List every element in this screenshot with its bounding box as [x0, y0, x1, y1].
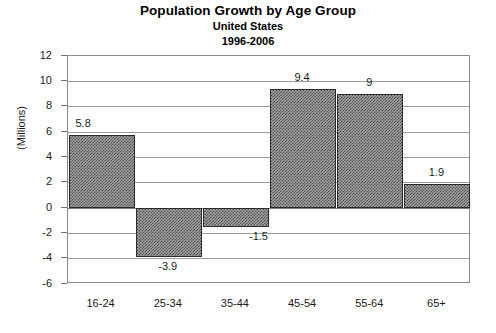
- x-tick-label: 16-24: [67, 298, 134, 309]
- x-tick-label: 25-34: [134, 298, 201, 309]
- bar[interactable]: [404, 184, 470, 208]
- gridline: [68, 132, 469, 133]
- y-tick-label: 8: [12, 100, 52, 111]
- y-tick-label: 12: [12, 50, 52, 61]
- chart-subtitle-period: 1996-2006: [0, 34, 496, 49]
- bar-value-label: 1.9: [403, 167, 469, 178]
- bar-value-label: -3.9: [135, 261, 201, 272]
- bar-value-label: 9: [336, 77, 402, 88]
- chart-title-block: Population Growth by Age Group United St…: [0, 2, 496, 49]
- x-tick-label: 35-44: [201, 298, 268, 309]
- y-tick-label: 0: [12, 202, 52, 213]
- bar[interactable]: [136, 208, 202, 257]
- bar-value-label: 9.4: [269, 72, 335, 83]
- y-tick-label: 10: [12, 75, 52, 86]
- bar-value-label: -1.5: [202, 231, 272, 242]
- bar[interactable]: [337, 94, 403, 208]
- chart-title: Population Growth by Age Group: [0, 2, 496, 19]
- y-tick-label: 2: [12, 176, 52, 187]
- chart-subtitle: United States: [0, 19, 496, 34]
- bar-value-label: 5.8: [68, 118, 142, 129]
- chart-page: { "chart_data": { "type": "bar", "title"…: [0, 0, 496, 333]
- bar[interactable]: [270, 89, 336, 208]
- y-tick-label: -6: [12, 278, 52, 289]
- y-tick-label: -2: [12, 227, 52, 238]
- y-tick-label: 6: [12, 126, 52, 137]
- x-tick-label: 55-64: [336, 298, 403, 309]
- gridline: [68, 106, 469, 107]
- gridline: [68, 258, 469, 259]
- y-tick-label: 4: [12, 151, 52, 162]
- y-tick-label: -4: [12, 252, 52, 263]
- x-tick-label: 45-54: [269, 298, 336, 309]
- bar[interactable]: [203, 208, 269, 227]
- x-tick-label: 65+: [403, 298, 470, 309]
- bar[interactable]: [69, 135, 135, 208]
